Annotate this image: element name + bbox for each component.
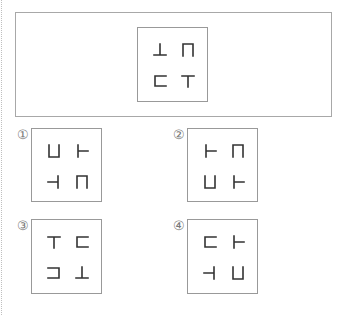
cropped-question-text [30, 0, 270, 2]
T-pointing-left-icon [202, 265, 218, 281]
option-label: ④ [172, 219, 186, 233]
bracket-open-right-icon [202, 234, 218, 250]
cup-open-top-icon [230, 265, 246, 281]
T-pointing-right-icon [74, 143, 90, 159]
arch-open-bottom-icon [230, 143, 246, 159]
T-pointing-right-icon [230, 174, 246, 190]
T-pointing-left-icon [46, 174, 62, 190]
cup-open-top-icon [202, 174, 218, 190]
bracket-open-left-icon [46, 265, 62, 281]
option-2-figure[interactable] [187, 128, 258, 202]
inverted-T-icon [152, 42, 168, 58]
option-label: ① [16, 128, 30, 142]
T-icon [180, 73, 196, 89]
T-icon [46, 234, 62, 250]
T-pointing-right-icon [202, 143, 218, 159]
option-4-figure[interactable] [187, 219, 258, 294]
inverted-T-icon [74, 265, 90, 281]
option-label: ③ [16, 219, 30, 233]
option-3-figure[interactable] [31, 219, 102, 294]
option-1-figure[interactable] [31, 128, 102, 202]
T-pointing-right-icon [230, 234, 246, 250]
reference-figure [137, 27, 208, 102]
bracket-open-right-icon [74, 234, 90, 250]
option-label: ② [172, 128, 186, 142]
bracket-open-right-icon [152, 73, 168, 89]
cup-open-top-icon [46, 143, 62, 159]
arch-open-bottom-icon [180, 42, 196, 58]
page-margin-dotted-line [1, 0, 2, 315]
arch-open-bottom-icon [74, 174, 90, 190]
